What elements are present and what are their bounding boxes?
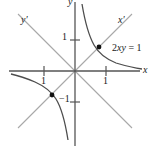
x-tick-label-negative-one: 1 (41, 76, 46, 86)
x-tick-label-positive-one: 1 (103, 76, 108, 86)
x-axis-label: x (143, 65, 147, 75)
hyperbola-branch-upper-right (82, 4, 142, 69)
vertex-point-upper-right (97, 45, 102, 50)
y-prime-axis-label: y′ (21, 15, 28, 25)
equation-relation: = 1 (126, 42, 142, 53)
y-tick-label-negative-one: −1 (59, 94, 70, 104)
x-prime-axis-label: x′ (118, 15, 125, 25)
vertex-point-lower-left (50, 93, 55, 98)
conic-graph-figure: y′ x′ y x 1 1 1 −1 2xy = 1 (0, 0, 155, 149)
curve-equation-label: 2xy = 1 (112, 43, 142, 53)
equation-variables: xy (117, 42, 126, 53)
y-tick-label-positive-one: 1 (62, 32, 67, 42)
y-axis-label: y (68, 0, 72, 7)
